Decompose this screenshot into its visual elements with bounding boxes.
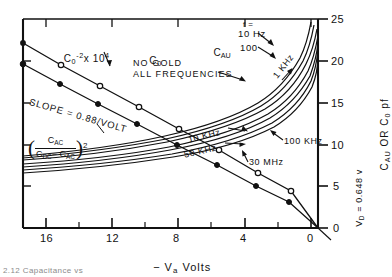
arrowhead-30mhz bbox=[242, 150, 247, 157]
y-tick-label-25: 25 bbox=[331, 13, 344, 25]
y-major-ticks-right bbox=[318, 19, 328, 228]
c0-inv-sup: -2 bbox=[76, 51, 84, 60]
annotation-c0-inverse-square: C0-2x 104 bbox=[57, 40, 110, 66]
formula-den-b-sub: AC bbox=[66, 153, 75, 160]
top-ticks bbox=[46, 19, 311, 27]
formula-den-a-sub: DC bbox=[42, 153, 51, 160]
annotation-all-frequencies: ALL FREQUENCIES bbox=[133, 69, 233, 80]
y-axis-title-mid-sub: 0 bbox=[383, 112, 392, 117]
y-tick-label-10: 10 bbox=[331, 139, 344, 151]
vd-symbol-sub: D bbox=[358, 215, 365, 220]
formula-den-minus: − C bbox=[52, 149, 66, 159]
y-axis-title-lead: C bbox=[379, 162, 390, 170]
y-tick-label-15: 15 bbox=[331, 97, 344, 109]
vd-annotation: VD = 0.648 v bbox=[344, 169, 365, 233]
arrowhead-all-frequencies bbox=[239, 76, 246, 82]
c0-inv-tail-sup: 4 bbox=[105, 51, 110, 60]
arrowhead-100hz bbox=[270, 52, 277, 59]
x-axis-title-sub: a bbox=[173, 266, 178, 275]
formula-fraction: CACCDC− CAC bbox=[35, 135, 76, 162]
x-tick-label-0: 0 bbox=[307, 232, 314, 244]
y-tick-label-0: 0 bbox=[333, 222, 340, 234]
vd-value: = 0.648 v bbox=[354, 169, 364, 215]
cau-main: C bbox=[214, 47, 221, 58]
annotation-no-gold: NO GOLD bbox=[133, 58, 182, 69]
annotation-f-10hz: 10 Hz bbox=[238, 28, 266, 39]
annotation-f-30mhz: 30 MHz bbox=[249, 157, 284, 167]
x-axis-title: − Va Volts bbox=[145, 249, 211, 275]
series-c0-inv-sq-endpoint bbox=[20, 40, 26, 46]
formula-close-paren: ) bbox=[76, 140, 83, 156]
y-axis-title: CAU OR C0 pf bbox=[368, 98, 392, 178]
y-axis-title-mid: OR C bbox=[379, 117, 390, 150]
c0-inv-symbol: C bbox=[64, 53, 72, 64]
x-tick-label-16: 16 bbox=[40, 232, 53, 244]
y-axis-title-lead-sub: AU bbox=[383, 150, 392, 162]
arrowhead-50khz bbox=[240, 143, 247, 148]
annotation-f-100khz: 100 KHz bbox=[284, 136, 323, 146]
x-tick-label-8: 8 bbox=[173, 232, 180, 244]
vd-symbol: V bbox=[354, 220, 364, 227]
x-major-ticks bbox=[46, 218, 311, 228]
y-tick-label-20: 20 bbox=[331, 55, 344, 67]
x-tick-label-12: 12 bbox=[106, 232, 119, 244]
x-axis-title-unit: Volts bbox=[182, 261, 211, 273]
annotation-f-100hz: 100 bbox=[240, 42, 258, 53]
formula-denominator: CDC− CAC bbox=[35, 148, 76, 162]
formula-exponent: 2 bbox=[83, 141, 87, 150]
annotation-ratio-formula: (CACCDC− CAC)2 bbox=[19, 117, 87, 162]
c0-inv-tail: x 10 bbox=[84, 53, 105, 64]
formula-num-sub: AC bbox=[54, 139, 63, 146]
figure-caption-fragment: 2.12 Capacitance vs bbox=[3, 266, 83, 275]
formula-numerator: CAC bbox=[35, 135, 76, 148]
formula-open-paren: ( bbox=[28, 140, 35, 156]
cau-sub: AU bbox=[221, 51, 231, 60]
leader-vd bbox=[318, 228, 331, 240]
x-tick-label-4: 4 bbox=[240, 232, 247, 244]
arrowhead-10hz bbox=[268, 39, 275, 46]
y-axis-title-unit: pf bbox=[379, 98, 390, 112]
x-axis-title-main: − V bbox=[153, 261, 173, 273]
annotation-cau-symbol: CAU bbox=[208, 36, 231, 60]
y-tick-label-5: 5 bbox=[333, 180, 340, 192]
